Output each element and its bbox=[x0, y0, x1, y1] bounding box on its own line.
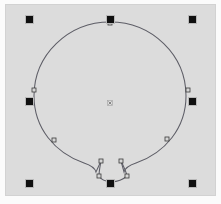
node-lower-left[interactable] bbox=[52, 138, 56, 142]
handle-top-left[interactable] bbox=[26, 16, 33, 23]
canvas-vector-layer[interactable] bbox=[0, 0, 221, 204]
node-neck-left-bottom[interactable] bbox=[97, 174, 101, 178]
handle-top-center[interactable] bbox=[107, 16, 114, 23]
node-right[interactable] bbox=[186, 88, 190, 92]
node-neck-right-bottom[interactable] bbox=[125, 174, 129, 178]
editor-canvas-root bbox=[0, 0, 221, 204]
node-neck-left-top[interactable] bbox=[99, 159, 103, 163]
object-center-marker[interactable] bbox=[108, 101, 113, 106]
handle-bottom-right[interactable] bbox=[189, 180, 196, 187]
node-left[interactable] bbox=[32, 88, 36, 92]
node-neck-right-top[interactable] bbox=[119, 159, 123, 163]
balloon-body-path[interactable] bbox=[34, 22, 186, 172]
node-lower-right[interactable] bbox=[165, 137, 169, 141]
handle-middle-right[interactable] bbox=[189, 98, 196, 105]
handle-bottom-left[interactable] bbox=[26, 180, 33, 187]
handle-middle-left[interactable] bbox=[26, 98, 33, 105]
handle-top-right[interactable] bbox=[189, 16, 196, 23]
balloon-shape-group[interactable] bbox=[34, 22, 186, 182]
handle-bottom-center[interactable] bbox=[107, 180, 114, 187]
